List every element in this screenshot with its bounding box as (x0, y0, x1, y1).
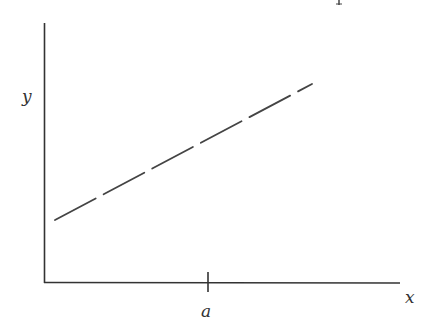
y-axis-label: y (21, 86, 32, 106)
dashed-line (55, 84, 312, 220)
tick-label-a: a (201, 301, 211, 321)
graph-diagram: y a x (0, 0, 430, 334)
x-axis (44, 283, 400, 284)
x-axis-label: x (405, 287, 415, 307)
